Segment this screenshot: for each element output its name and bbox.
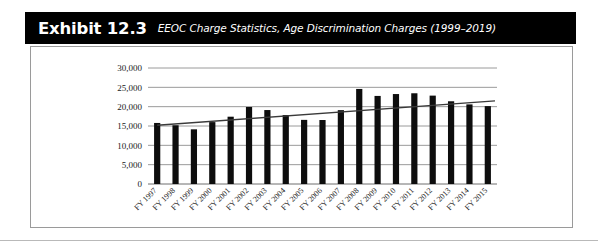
y-axis-tick-label: 5,000	[122, 160, 143, 170]
y-axis-tick-label: 10,000	[117, 141, 142, 151]
bar	[191, 129, 197, 184]
x-axis-tick-labels: FY 1997FY 1998FY 1999FY 2000FY 2001FY 20…	[132, 186, 489, 212]
y-axis-tick-label: 30,000	[117, 63, 142, 73]
y-axis-tick-label: 15,000	[117, 121, 142, 131]
bar	[228, 117, 234, 184]
bar	[430, 96, 436, 184]
exhibit-number-label: Exhibit 12.3	[38, 19, 147, 38]
bars-group	[154, 89, 491, 184]
bar	[319, 120, 325, 184]
y-axis-tick-label: 25,000	[117, 83, 142, 93]
page-bottom-rule	[0, 240, 598, 241]
bar	[466, 104, 472, 184]
bar	[154, 123, 160, 184]
trend-line	[157, 101, 495, 125]
bar-chart: 30,00025,00020,00015,00010,0005,0000 FY …	[31, 47, 572, 227]
bar	[209, 122, 215, 184]
bar	[172, 125, 178, 184]
bar	[448, 101, 454, 184]
y-axis-tick-label: 0	[138, 179, 143, 189]
bar	[338, 110, 344, 184]
exhibit-figure: Exhibit 12.3 EEOC Charge Statistics, Age…	[0, 0, 598, 252]
bar	[301, 120, 307, 184]
y-axis-tick-labels: 30,00025,00020,00015,00010,0005,0000	[117, 63, 142, 189]
exhibit-header-bar: Exhibit 12.3 EEOC Charge Statistics, Age…	[25, 12, 576, 44]
exhibit-subtitle: EEOC Charge Statistics, Age Discriminati…	[158, 22, 496, 34]
chart-panel: 30,00025,00020,00015,00010,0005,0000 FY …	[30, 46, 573, 228]
bar	[283, 115, 289, 184]
bar	[356, 89, 362, 184]
trend-line-group	[157, 101, 495, 125]
bar	[264, 110, 270, 184]
y-axis-tick-label: 20,000	[117, 102, 142, 112]
bar	[485, 106, 491, 184]
